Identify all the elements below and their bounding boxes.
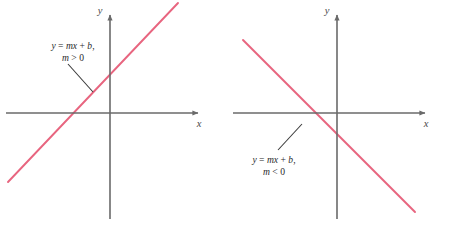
annotation-equation: y = mx + b, <box>251 154 295 165</box>
leader-line <box>68 64 93 92</box>
equation-comma: , <box>293 154 295 165</box>
linear-functions-figure: x y y = mx + b, m > 0 <box>0 0 453 228</box>
equation-plus-sign: + <box>278 154 288 165</box>
equation-comma: , <box>92 40 94 51</box>
annotation-equation: y = mx + b, <box>50 40 94 51</box>
equation-plus-sign: + <box>77 40 87 51</box>
annotation-slope-condition: m > 0 <box>62 52 84 63</box>
panel-positive-slope: x y y = mx + b, m > 0 <box>0 0 227 228</box>
line-negative-slope <box>243 40 415 212</box>
line-positive-slope <box>8 3 178 182</box>
slope-inequality: < 0 <box>270 166 285 177</box>
slope-inequality: > 0 <box>69 52 84 63</box>
y-axis-label: y <box>97 5 103 16</box>
annotation-slope-condition: m < 0 <box>263 166 285 177</box>
equation-equals-sign: = <box>257 154 267 165</box>
x-axis-label: x <box>423 118 429 129</box>
leader-line <box>278 124 302 150</box>
x-axis-label: x <box>196 118 202 129</box>
y-axis-label: y <box>324 5 330 16</box>
panel-negative-slope: x y y = mx + b, m < 0 <box>226 0 453 228</box>
equation-equals-sign: = <box>56 40 66 51</box>
